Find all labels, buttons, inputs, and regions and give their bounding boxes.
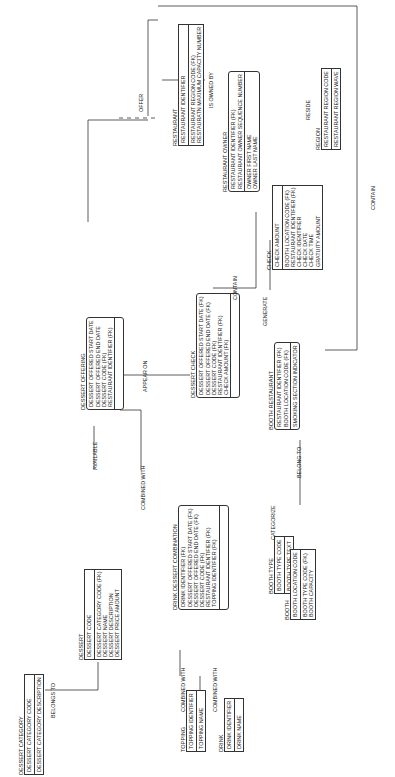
rel-reside: RESIDE	[305, 100, 311, 120]
rel-combined-with-offering: COMBINED WITH	[140, 466, 146, 510]
rel-belong-to-booth: BELONG TO	[296, 447, 302, 478]
entity-dessert-check: DESSERT CHECK DESSERT OFFERED START DATE…	[190, 293, 240, 398]
rel-combined-with-drink: COMBINED WITH	[212, 668, 218, 712]
rel-available: AVAILABLE	[92, 442, 98, 470]
entity-dessert-category: DESSERT CATEGORY DESSERT CATEGORY CODE D…	[18, 674, 44, 775]
entity-drink-dessert-combination: DRINK DESSERT COMBINATION DRINK IDENTIFI…	[172, 505, 229, 610]
rel-categorize: CATEGORIZE	[270, 505, 276, 540]
entity-drink: DRINK DRINK IDENTIFIER DRINK NAME	[218, 698, 244, 752]
entity-check: CHECK CHECK AMOUNT BOOTH LOCATION CODE (…	[266, 185, 323, 270]
entity-restaurant-owner: RESTAURANT OWNER RESTAURANT IDENTIFIER (…	[222, 71, 260, 192]
entity-booth: BOOTH BOOTH LOCATION CODE BOOTH TYPE COD…	[284, 549, 316, 620]
rel-combined-with-topping: COMBINED WITH	[180, 668, 186, 712]
rel-contain-booth: CONTAIN	[370, 186, 376, 210]
entity-booth-restaurant: BOOTH RESTAURANT RESTAURANT IDENTIFIER (…	[268, 342, 300, 430]
entity-restaurant: RESTAURANT RESTAURANT IDENTIFIER RESTAUR…	[172, 24, 204, 146]
rel-contain-check: CONTAIN	[232, 276, 238, 300]
entity-dessert: DESSERT DESSERT CODE DESSERT CATEGORY CO…	[78, 569, 122, 660]
rel-belongs-to-category: BELONGS TO	[50, 683, 56, 718]
rel-is-owned-by: IS OWNED BY	[208, 72, 214, 108]
entity-region: REGION RESTAURANT REGION CODE RESTAURANT…	[315, 68, 341, 150]
entity-dessert-offering: DESSERT OFFERING DESSERT OFFERED START D…	[80, 317, 124, 410]
rel-generate: GENERATE	[262, 297, 268, 326]
rel-appear-on: APPEAR ON	[142, 361, 148, 392]
rel-offer: OFFER	[138, 94, 144, 112]
